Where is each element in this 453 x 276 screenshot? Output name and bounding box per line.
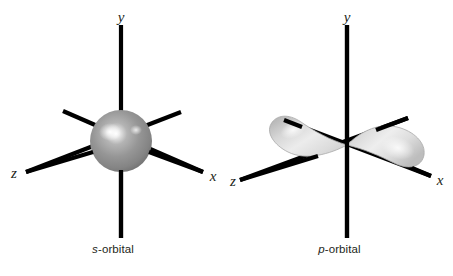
axis-stub-x-positive	[149, 152, 203, 172]
p-orbital-caption-rest: -orbital	[325, 243, 361, 255]
p-orbital-caption: p-orbital	[226, 243, 453, 255]
axis-label-z: z	[10, 165, 17, 181]
axis-label-y: y	[342, 9, 351, 25]
s-orbital-caption-rest: -orbital	[98, 243, 134, 255]
s-orbital-caption: s-orbital	[0, 243, 226, 255]
axis-label-y: y	[116, 9, 125, 25]
p-orbital-lobe-negative	[270, 116, 347, 156]
s-orbital-graphic: y z x	[0, 0, 226, 276]
s-orbital-sphere	[90, 110, 152, 172]
axis-label-x: x	[209, 168, 217, 184]
s-orbital-panel: y z x s-orbital	[0, 0, 226, 276]
axis-label-x: x	[436, 172, 444, 188]
p-orbital-graphic: y z x	[226, 0, 453, 276]
p-orbital-panel: y z x p-orbital	[226, 0, 453, 276]
orbital-figure: y z x s-orbital	[0, 0, 453, 276]
axis-stub-z-positive	[26, 152, 93, 172]
axis-label-z: z	[229, 173, 236, 189]
axis-stub-z-positive	[240, 156, 318, 180]
